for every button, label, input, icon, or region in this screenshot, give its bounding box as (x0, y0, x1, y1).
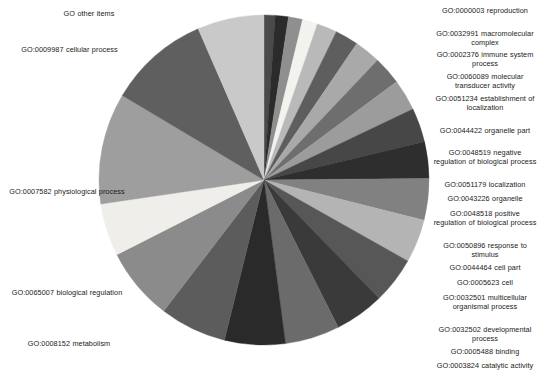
pie-slice-label: GO:0002376 immune system process (432, 50, 538, 68)
pie-slice-label: GO:0048519 negative regulation of biolog… (433, 148, 537, 166)
pie-slice-label: GO:0050896 response to stimulus (432, 241, 538, 259)
pie-slice-label: GO:0065007 biological regulation (3, 288, 131, 297)
pie-slice-label: GO:0003824 catalytic activity (432, 361, 538, 370)
pie-slice-label: GO:0008152 metabolism (5, 339, 133, 348)
pie-slice-label: GO:0044422 organelle part (432, 126, 538, 135)
pie-slice-label: GO:0032502 developmental process (432, 325, 538, 343)
pie-slice-label: GO:0032991 macromolecular complex (430, 29, 540, 47)
pie-slice-label: GO:0000003 reproduction (432, 6, 538, 15)
pie-slice-label: GO:0005623 cell (432, 278, 538, 287)
pie-slice-label: GO:0051234 establishment of localization (435, 94, 535, 112)
pie-slice-label: GO:0005488 binding (432, 347, 538, 356)
pie-slice-label: GO:0032501 multicellular organismal proc… (432, 293, 538, 311)
pie-slice-label: GO:0009987 cellular process (2, 45, 137, 54)
pie-slice-label: GO:0044464 cell part (432, 263, 538, 272)
pie-slice-label: GO:0043226 organelle (432, 194, 538, 203)
pie-slice-label: GO:0048518 positive regulation of biolog… (433, 209, 537, 227)
pie-slice-label: GO:0060089 molecular transducer activity (432, 72, 538, 90)
pie-slice-label: GO:0007582 physiological process (3, 187, 131, 196)
pie-chart-page: GO:0000003 reproductionGO:0032991 macrom… (0, 0, 540, 381)
pie-slice-label: GO other items (14, 9, 164, 18)
chart-area: GO:0000003 reproductionGO:0032991 macrom… (0, 0, 540, 381)
pie-slice-label: GO:0051179 localization (432, 180, 538, 189)
